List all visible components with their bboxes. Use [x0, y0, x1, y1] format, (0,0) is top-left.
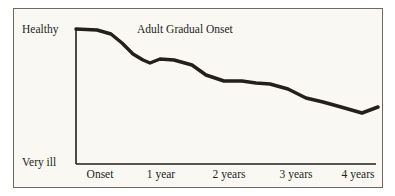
- x-tick-label-2-years: 2 years: [213, 169, 246, 181]
- chart-title: Adult Gradual Onset: [137, 24, 233, 36]
- data-series-line: [76, 29, 378, 113]
- y-axis-top-label: Healthy: [22, 24, 58, 36]
- x-tick-label-4-years: 4 years: [342, 169, 375, 181]
- x-tick-label-1-year: 1 year: [147, 169, 175, 181]
- x-tick-label-3-years: 3 years: [280, 169, 313, 181]
- figure-container: Healthy Very ill Adult Gradual Onset Ons…: [0, 0, 395, 196]
- y-axis-bottom-label: Very ill: [22, 157, 56, 169]
- x-tick-label-onset: Onset: [87, 169, 114, 181]
